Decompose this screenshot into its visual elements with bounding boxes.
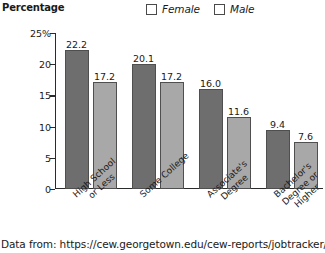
- bar-female-1: 20.1: [132, 64, 156, 189]
- bar-value-label: 20.1: [133, 53, 154, 64]
- y-tick-label: 0: [45, 184, 51, 195]
- legend-swatch-male-icon: [214, 4, 225, 15]
- bar-female-2: 16.0: [199, 89, 223, 189]
- y-tick-label: 25%: [30, 28, 51, 39]
- source-footnote: Data from: https://cew.georgetown.edu/ce…: [1, 238, 325, 250]
- bar-value-label: 7.6: [298, 131, 313, 142]
- y-tick-label: 15: [39, 90, 51, 101]
- legend-swatch-female-icon: [146, 4, 157, 15]
- bar-value-label: 11.6: [228, 106, 249, 117]
- y-tick-label: 20: [39, 59, 51, 70]
- bar-chart: Percentage Female Male 0510152025% 22.21…: [0, 0, 325, 253]
- legend-item-male: Male: [214, 3, 254, 15]
- y-tick-label: 5: [45, 152, 51, 163]
- y-axis-line: [55, 33, 56, 189]
- bar-value-label: 22.2: [66, 39, 87, 50]
- legend-item-female: Female: [146, 3, 200, 15]
- bar-female-0: 22.2: [65, 50, 89, 189]
- bar-value-label: 17.2: [161, 71, 182, 82]
- bar-value-label: 17.2: [94, 71, 115, 82]
- bar-value-label: 9.4: [270, 119, 285, 130]
- legend-label-female: Female: [162, 3, 200, 15]
- legend-label-male: Male: [230, 3, 254, 15]
- y-axis-title: Percentage: [2, 2, 64, 13]
- bar-value-label: 16.0: [200, 78, 221, 89]
- chart-legend: Female Male: [146, 3, 254, 15]
- y-tick-label: 10: [39, 121, 51, 132]
- plot-area: 0510152025% 22.217.220.117.216.011.69.47…: [55, 33, 323, 189]
